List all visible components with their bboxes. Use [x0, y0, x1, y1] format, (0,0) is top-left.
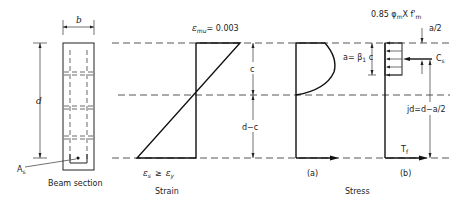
steel-label: As [17, 165, 26, 175]
strain-profile [137, 43, 240, 158]
flexure-diagram: b d As Beam section εmu= 0.003 [0, 0, 470, 206]
panel-a-label: (a) [307, 169, 318, 178]
stress-diagram-a: (a) [296, 43, 339, 178]
half-a-label: a/2 [429, 24, 442, 33]
beam-section: b d As Beam section [17, 15, 102, 188]
depth-label: d [36, 96, 42, 106]
parabolic-stress-block [296, 43, 335, 158]
strain-caption: Strain [155, 187, 179, 196]
width-label: b [76, 15, 82, 25]
cs-label: Cs [436, 54, 445, 64]
a-label: a= β1 c [343, 53, 373, 63]
panel-b-label: (b) [400, 169, 411, 178]
block-arrows [386, 42, 402, 77]
steel-leader [25, 159, 76, 167]
beam-section-caption: Beam section [48, 179, 102, 188]
strain-diagram: εmu= 0.003 c d−c εs≥εy Strain [137, 23, 266, 196]
beam-outline [63, 43, 94, 170]
d-minus-c-label: d−c [242, 123, 258, 132]
steel-bar [76, 156, 79, 159]
tf-label: Tf [400, 145, 409, 155]
jd-label: jd=d−a/2 [406, 105, 445, 114]
stirrups [64, 50, 93, 160]
stress-caption: Stress [345, 187, 370, 196]
block-magnitude-label: 0.85 φmX f'm [371, 10, 422, 20]
steel-strain-label: εs≥εy [143, 168, 175, 180]
c-label: c [250, 65, 254, 74]
ultimate-strain-label: εmu= 0.003 [192, 23, 239, 34]
reference-lines [112, 43, 450, 158]
stress-diagram-b: a= β1 c Cs a/2 0.85 φmX f'm jd=d−a/2 Tf … [343, 10, 460, 178]
